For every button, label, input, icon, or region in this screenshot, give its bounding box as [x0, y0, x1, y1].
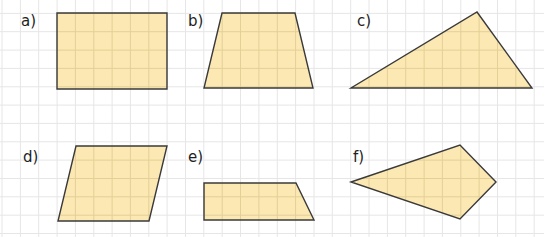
- label-c: c): [357, 14, 371, 29]
- label-b: b): [188, 14, 203, 29]
- label-d: d): [23, 150, 38, 165]
- label-e: e): [188, 150, 203, 165]
- label-f: f): [353, 150, 364, 165]
- label-a: a): [21, 14, 36, 29]
- grid-diagram: [0, 0, 552, 237]
- shapes-group: [0, 0, 552, 237]
